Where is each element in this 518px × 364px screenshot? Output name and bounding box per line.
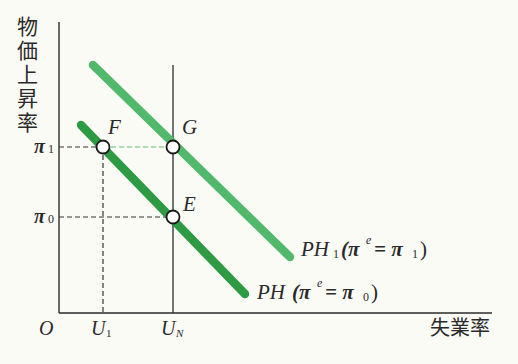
svg-text:0: 0 [48,212,54,226]
point-g-label: G [182,115,197,139]
y-tick-pi0: π 0 [34,205,54,227]
point-f-marker [97,141,110,154]
svg-text:U: U [161,317,177,339]
svg-text:(π: (π [341,237,360,261]
svg-text:): ) [420,237,427,261]
svg-text:N: N [175,327,184,339]
svg-text:): ) [371,280,378,304]
point-f-label: F [107,115,121,139]
point-g-marker [167,141,180,154]
x-tick-u1: U 1 [91,317,112,339]
y-label-char: 上 [17,63,38,87]
point-e-marker [167,211,180,224]
ph1-curve [93,65,290,257]
ph1-curve-label: PH 1 (π e = π 1 ) [300,233,427,261]
svg-text:1: 1 [412,247,418,261]
svg-text:= π: = π [325,280,354,304]
svg-text:1: 1 [106,327,112,339]
ph-curve-label: PH (π e = π 0 ) [256,276,378,304]
phillips-curve-diagram: 物 価 上 昇 率 F G E π 1 π 0 O U 1 U N 失業率 [0,0,518,364]
svg-text:PH: PH [300,237,331,261]
y-tick-pi1: π 1 [34,135,54,157]
svg-text:PH: PH [256,280,287,304]
y-label-char: 価 [17,39,38,63]
svg-text:1: 1 [48,142,54,156]
svg-text:e: e [366,233,372,247]
y-label-char: 物 [17,15,38,39]
svg-text:e: e [317,276,323,290]
svg-text:(π: (π [292,280,311,304]
svg-text:π: π [34,205,46,227]
svg-text:U: U [91,317,107,339]
svg-text:0: 0 [363,290,369,304]
y-axis-label: 物 価 上 昇 率 [17,15,38,135]
diagram-canvas: 物 価 上 昇 率 F G E π 1 π 0 O U 1 U N 失業率 [0,0,518,364]
origin-label: O [39,317,53,339]
point-e-label: E [182,192,196,216]
svg-text:= π: = π [374,237,403,261]
svg-text:π: π [34,135,46,157]
y-label-char: 昇 [17,87,38,111]
y-label-char: 率 [17,111,38,135]
x-tick-un: U N [161,317,184,339]
x-axis-label: 失業率 [430,316,490,340]
svg-text:1: 1 [333,247,339,261]
